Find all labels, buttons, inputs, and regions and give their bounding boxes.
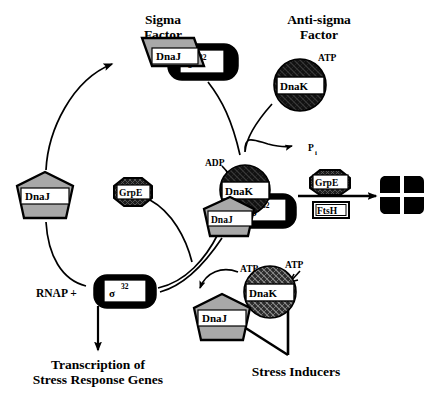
diagram-canvas: σ 32 DnaJ Sigma Factor Anti-sigma Factor… [0, 0, 440, 401]
sigma32-symbol-free: σ [109, 287, 115, 299]
atp-label-top: ATP [318, 53, 336, 63]
stress-inducers-heading: Stress Inducers [252, 364, 341, 379]
grpe-free[interactable]: GrpE [114, 178, 152, 206]
edge-grpe-curve [150, 200, 192, 262]
edge-atp-to-dnaj-bottom [200, 270, 238, 288]
sigma-factor-heading-line2: Factor [144, 27, 182, 42]
dnaj-free-left[interactable]: DnaJ [17, 172, 73, 218]
pathway-diagram: σ 32 DnaJ Sigma Factor Anti-sigma Factor… [0, 0, 440, 401]
edge-dnak-to-pi [245, 104, 292, 152]
dnaj-label-top: DnaJ [156, 50, 182, 62]
grpe-on-arrow[interactable]: GrpE [310, 170, 350, 195]
dnak-label-bottom: DnaK [249, 287, 278, 299]
pi-symbol: P [308, 143, 314, 153]
edge-dnaj-to-stress-inducers [244, 327, 288, 355]
sigma32-superscript-free: 32 [121, 282, 129, 291]
grpe-label-free: GrpE [119, 188, 142, 198]
ftsh-label: FtsH [317, 206, 338, 216]
transcription-heading-line1: Transcription of [51, 357, 145, 372]
degradation-quadrant-tr [404, 176, 424, 193]
ftsh-on-arrow[interactable]: FtsH [313, 202, 349, 218]
free-sigma32[interactable]: σ 32 [94, 275, 156, 308]
grpe-label-arrow: GrpE [315, 178, 338, 188]
sigma-factor-complex[interactable]: σ 32 DnaJ [142, 38, 238, 80]
dnak-atp-bottom[interactable]: DnaK [244, 266, 296, 318]
edge-sigma-complex-to-ternary [208, 82, 240, 155]
sigma-factor-heading-line1: Sigma [145, 12, 181, 27]
transcription-heading-line2: Stress Response Genes [33, 372, 163, 387]
dnaj-label-left: DnaJ [25, 190, 51, 202]
anti-sigma-heading-line1: Anti-sigma [287, 12, 351, 27]
atp-label-bottom-right: ATP [285, 260, 303, 270]
dnaj-bottom[interactable]: DnaJ [194, 294, 250, 340]
dnaj-label-bottom: DnaJ [202, 312, 228, 324]
degradation-icon [380, 176, 424, 214]
pi-label-group: P i [308, 143, 317, 157]
ternary-complex[interactable]: σ 32 DnaK DnaJ [204, 165, 296, 236]
anti-sigma-heading-line2: Factor [300, 27, 338, 42]
degradation-quadrant-tl [380, 176, 400, 193]
dnak-atp-top[interactable]: DnaK [274, 59, 326, 111]
dnak-label-center: DnaK [225, 185, 254, 197]
adp-label: ADP [205, 158, 225, 168]
edge-dnaj-to-rnap [46, 222, 86, 286]
pi-subscript: i [315, 149, 317, 157]
dnaj-label-center: DnaJ [211, 215, 233, 225]
degradation-quadrant-bl [380, 197, 400, 214]
dnak-label-top: DnaK [280, 80, 309, 92]
edge-dnaj-to-sigma-complex [46, 64, 112, 170]
degradation-quadrant-br [404, 197, 424, 214]
edge-free-sigma-to-ternary [158, 234, 218, 288]
rnap-label: RNAP + [36, 287, 77, 299]
